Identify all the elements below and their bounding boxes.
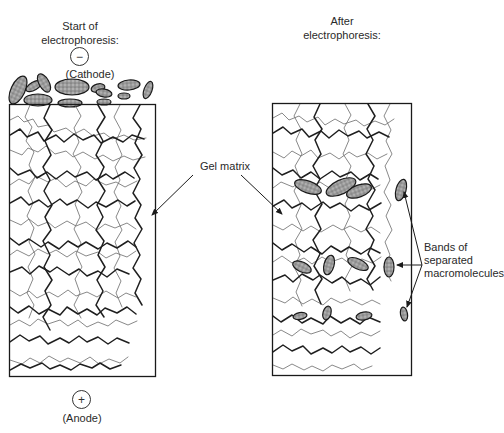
gel-start <box>10 105 146 370</box>
bands-arrows <box>397 192 422 307</box>
gel-matrix-arrows <box>152 175 282 215</box>
unseparated-molecules <box>5 72 155 107</box>
gel-after <box>273 104 394 371</box>
